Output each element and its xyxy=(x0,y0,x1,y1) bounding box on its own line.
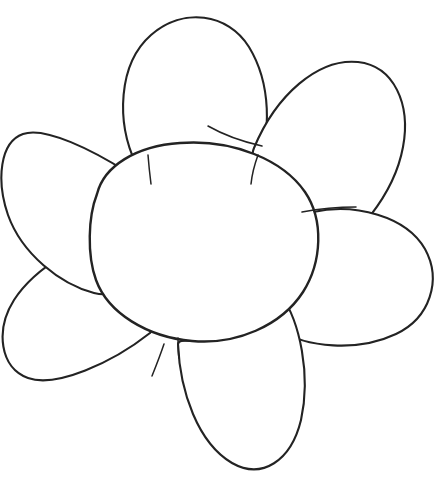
flower-line-drawing xyxy=(0,0,446,483)
center-layer xyxy=(90,143,319,342)
drawing-canvas xyxy=(0,0,446,483)
flower-center xyxy=(90,143,319,342)
